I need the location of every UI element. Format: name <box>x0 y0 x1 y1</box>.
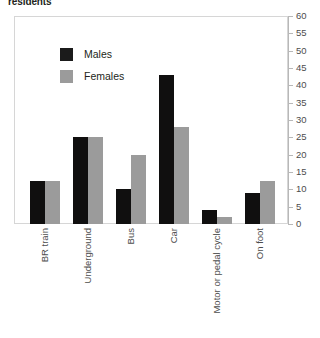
y-axis-tick-label: 10 <box>296 185 307 195</box>
y-axis-tick <box>288 120 293 121</box>
y-axis-tick <box>288 16 293 17</box>
y-axis-tick-label: 25 <box>296 133 307 143</box>
bar-group <box>202 16 232 224</box>
bar-group <box>245 16 275 224</box>
legend-item-females: Females <box>60 65 170 87</box>
bar-females <box>88 137 103 224</box>
legend-item-label: Males <box>84 48 112 60</box>
y-axis-tick <box>288 224 293 225</box>
x-axis-label: Underground <box>83 228 93 283</box>
x-axis-label: Car <box>169 228 179 243</box>
y-axis-tick-label: 0 <box>296 219 301 229</box>
x-axis-labels: BR trainUndergroundBusCarMotor or pedal … <box>14 228 288 336</box>
bar-males <box>30 181 45 224</box>
y-axis-tick-label: 15 <box>296 167 307 177</box>
bar-females <box>174 127 189 224</box>
y-axis-tick-label: 20 <box>296 150 307 160</box>
bar-females <box>217 217 232 224</box>
y-axis-tick <box>288 207 293 208</box>
y-axis-tick-label: 5 <box>296 202 301 212</box>
legend-item-males: Males <box>60 43 170 65</box>
y-axis-tick-label: 60 <box>296 11 307 21</box>
y-axis-tick <box>288 103 293 104</box>
bar-males <box>245 193 260 224</box>
bar-males <box>116 189 131 224</box>
legend-swatch-icon <box>60 48 73 61</box>
chart-legend: MalesFemales <box>60 43 170 87</box>
y-axis-tick <box>288 85 293 86</box>
y-axis-tick-label: 40 <box>296 81 307 91</box>
y-axis-tick-label: 55 <box>296 29 307 39</box>
legend-swatch-icon <box>60 70 73 83</box>
y-axis-tick <box>288 137 293 138</box>
y-axis-tick <box>288 51 293 52</box>
y-axis: 051015202530354045505560 <box>288 16 320 224</box>
x-axis-label: Motor or pedal cycle <box>212 228 222 314</box>
legend-item-label: Females <box>84 70 124 82</box>
y-axis-tick-label: 30 <box>296 115 307 125</box>
y-axis-tick-label: 50 <box>296 46 307 56</box>
bar-females <box>45 181 60 224</box>
y-axis-tick <box>288 33 293 34</box>
bar-males <box>159 75 174 224</box>
y-axis-tick-label: 45 <box>296 63 307 73</box>
bar-males <box>73 137 88 224</box>
chart-title: residents <box>8 0 52 7</box>
y-axis-tick-label: 35 <box>296 98 307 108</box>
y-axis-tick <box>288 68 293 69</box>
y-axis-tick <box>288 172 293 173</box>
bar-females <box>131 155 146 224</box>
bar-males <box>202 210 217 224</box>
x-axis-label: BR train <box>40 228 50 262</box>
bar-group <box>30 16 60 224</box>
bar-females <box>260 181 275 224</box>
y-axis-tick <box>288 155 293 156</box>
x-axis-label: On foot <box>255 228 265 259</box>
y-axis-tick <box>288 189 293 190</box>
x-axis-label: Bus <box>126 228 136 244</box>
